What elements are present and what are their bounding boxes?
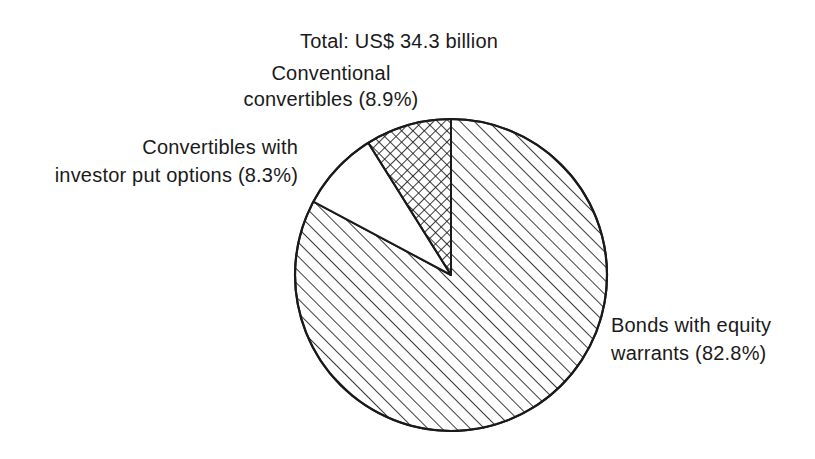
pie-slices [295, 119, 607, 431]
label-convertibles-put-options: Convertibles with investor put options (… [55, 133, 298, 189]
label-line: Convertibles with [55, 133, 298, 161]
label-line: warrants (82.8%) [611, 339, 771, 367]
label-line: Bonds with equity [611, 311, 771, 339]
label-line: convertibles (8.9%) [226, 86, 436, 112]
label-conventional-convertibles: Conventional convertibles (8.9%) [226, 60, 436, 112]
label-line: investor put options (8.3%) [55, 161, 298, 189]
pie-chart-figure: Total: US$ 34.3 billion Conventional con… [0, 0, 815, 459]
label-bonds-equity-warrants: Bonds with equity warrants (82.8%) [611, 311, 771, 367]
chart-title: Total: US$ 34.3 billion [300, 27, 498, 55]
label-line: Conventional [226, 60, 436, 86]
